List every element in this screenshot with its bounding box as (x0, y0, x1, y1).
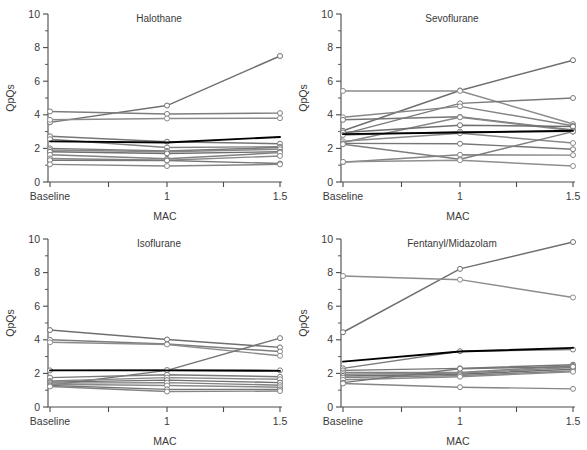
x-tick-label: Baseline (30, 415, 70, 427)
y-tick-label: 4 (327, 333, 333, 345)
y-axis-title: QpQs (4, 84, 16, 111)
y-axis-title: QpQs (4, 309, 16, 336)
series-subject-4 (48, 134, 283, 146)
y-tick-label: 10 (321, 233, 333, 245)
chart-panel-sevoflurane: 0246810Baseline11.5SevofluraneMACQpQs (293, 0, 586, 225)
axes: 0246810Baseline11.5 (321, 8, 580, 202)
y-tick-label: 4 (34, 108, 40, 120)
x-tick-label: 1 (457, 190, 463, 202)
series-subject-2 (48, 109, 283, 117)
y-tick-label: 8 (34, 41, 40, 53)
y-tick-label: 8 (327, 41, 333, 53)
y-tick-label: 4 (327, 108, 333, 120)
series-subject-2 (341, 273, 576, 300)
y-tick-label: 6 (327, 75, 333, 87)
axes: 0246810Baseline11.5 (28, 233, 287, 427)
y-axis-title: QpQs (297, 84, 309, 111)
y-tick-label: 0 (34, 401, 40, 413)
x-tick-label: Baseline (323, 190, 363, 202)
y-tick-label: 8 (34, 266, 40, 278)
chart-panel-isoflurane: 0246810Baseline11.5IsofluraneMACQpQs (0, 225, 293, 450)
series-subject-13 (341, 158, 576, 169)
chart-panel-halothane: 0246810Baseline11.5HalothaneMACQpQs (0, 0, 293, 225)
x-tick-label: 1 (457, 415, 463, 427)
y-tick-label: 0 (34, 176, 40, 188)
panel-title: Isoflurane (137, 238, 181, 249)
x-tick-label: 1.5 (273, 415, 288, 427)
x-axis-title: MAC (153, 210, 177, 222)
x-tick-label: 1.5 (566, 415, 581, 427)
y-tick-label: 8 (327, 266, 333, 278)
x-axis-title: MAC (446, 210, 470, 222)
axes: 0246810Baseline11.5 (28, 8, 287, 202)
series-subject-3 (48, 116, 283, 123)
axes: 0246810Baseline11.5 (321, 233, 580, 427)
figure-panel-grid: 0246810Baseline11.5HalothaneMACQpQs02468… (0, 0, 587, 450)
series-subject-11 (341, 381, 576, 391)
x-tick-label: 1.5 (273, 190, 288, 202)
y-tick-label: 6 (327, 300, 333, 312)
series-subject-1 (341, 58, 576, 134)
y-axis-title: QpQs (297, 309, 309, 336)
chart-panel-fentanyl-midazolam: 0246810Baseline11.5Fentanyl/MidazolamMAC… (293, 225, 586, 450)
y-tick-label: 2 (327, 367, 333, 379)
series-subject-1 (341, 240, 576, 335)
y-tick-label: 2 (34, 142, 40, 154)
x-axis-title: MAC (153, 435, 177, 447)
y-tick-label: 6 (34, 75, 40, 87)
x-axis-title: MAC (446, 435, 470, 447)
y-tick-label: 6 (34, 300, 40, 312)
x-tick-label: Baseline (323, 415, 363, 427)
series-mean (50, 370, 280, 371)
panel-title: Sevoflurane (425, 13, 479, 24)
x-tick-label: 1.5 (566, 190, 581, 202)
y-tick-label: 0 (327, 401, 333, 413)
x-tick-label: Baseline (30, 190, 70, 202)
y-tick-label: 10 (321, 8, 333, 20)
series-subject-10 (341, 141, 576, 152)
y-tick-label: 10 (28, 8, 40, 20)
y-tick-label: 2 (34, 367, 40, 379)
y-tick-label: 10 (28, 233, 40, 245)
panel-title: Fentanyl/Midazolam (407, 238, 496, 249)
y-tick-label: 0 (327, 176, 333, 188)
panel-title: Halothane (136, 13, 182, 24)
x-tick-label: 1 (164, 190, 170, 202)
y-tick-label: 4 (34, 333, 40, 345)
y-tick-label: 2 (327, 142, 333, 154)
x-tick-label: 1 (164, 415, 170, 427)
